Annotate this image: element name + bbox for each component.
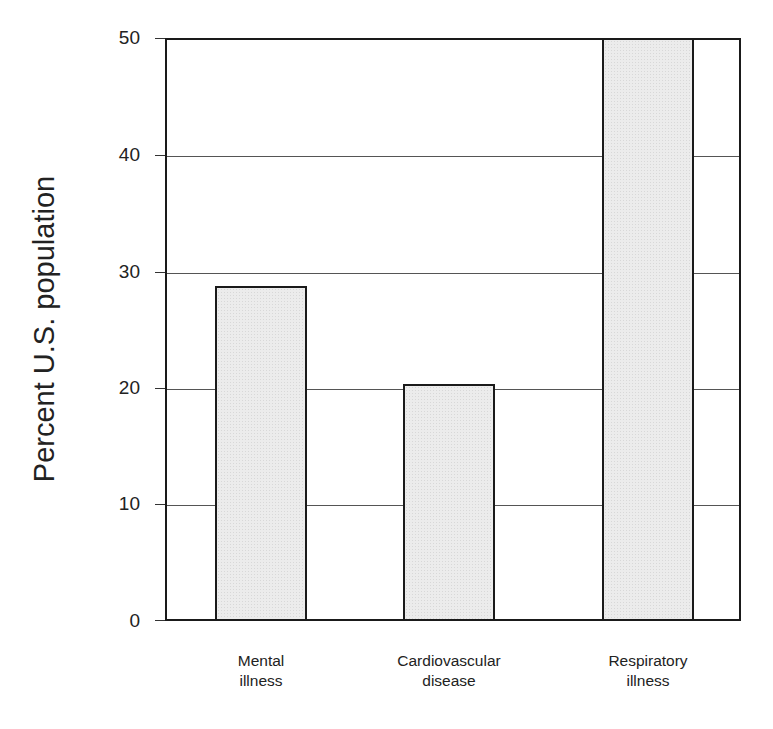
y-tick-label-30: 30	[80, 262, 140, 282]
bar-cardiovascular-disease	[403, 384, 495, 619]
bar-mental-illness	[215, 286, 307, 619]
y-tick-mark	[155, 620, 165, 621]
x-label-mental-illness: Mental illness	[181, 651, 341, 691]
y-tick-mark	[155, 272, 165, 273]
y-tick-label-0: 0	[80, 611, 140, 631]
plot-area	[165, 38, 741, 621]
y-tick-mark	[155, 155, 165, 156]
y-tick-label-20: 20	[80, 378, 140, 398]
y-tick-label-50: 50	[80, 28, 140, 48]
y-tick-label-10: 10	[80, 494, 140, 514]
y-tick-label-40: 40	[80, 145, 140, 165]
y-axis-title: Percent U.S. population	[28, 176, 61, 482]
y-tick-mark	[155, 388, 165, 389]
x-label-cardiovascular-disease: Cardiovascular disease	[369, 651, 529, 691]
y-tick-mark	[155, 504, 165, 505]
bar-respiratory-illness	[602, 38, 694, 619]
x-label-respiratory-illness: Respiratory illness	[568, 651, 728, 691]
y-tick-mark	[155, 38, 165, 39]
